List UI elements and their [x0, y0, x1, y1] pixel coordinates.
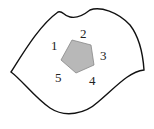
- label-4: 4: [89, 73, 96, 88]
- label-5: 5: [55, 70, 62, 85]
- label-1: 1: [51, 38, 58, 53]
- pentagon: [61, 40, 94, 73]
- label-2: 2: [80, 26, 87, 41]
- label-3: 3: [100, 48, 107, 63]
- diagram-canvas: 1 2 3 4 5: [0, 0, 154, 129]
